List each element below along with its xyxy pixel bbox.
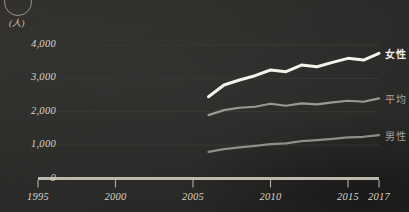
x-axis-tick-label: 2010: [259, 191, 281, 202]
y-axis-tick-label: 4,000: [0, 38, 56, 49]
y-axis-tick-label: 3,000: [0, 71, 56, 82]
y-axis-tick-label: 2,000: [0, 105, 56, 116]
y-axis-tick-label: 0: [0, 172, 56, 183]
series-lines: [209, 53, 380, 151]
y-axis-tick-label: 1,000: [0, 138, 56, 149]
series-label-female: 女性: [385, 46, 406, 61]
x-axis-tick-label: 2005: [182, 191, 204, 202]
x-axis-tick-label: 2015: [337, 191, 359, 202]
x-axis-tick-label: 1995: [27, 191, 49, 202]
x-axis-tick-label: 2017: [368, 191, 390, 202]
line-chart: [0, 0, 409, 212]
x-axis-tick-label: 2000: [104, 191, 126, 202]
x-axis-ticks: [38, 180, 379, 187]
series-label-male: 男性: [385, 128, 406, 143]
series-label-average: 平均: [385, 91, 406, 106]
